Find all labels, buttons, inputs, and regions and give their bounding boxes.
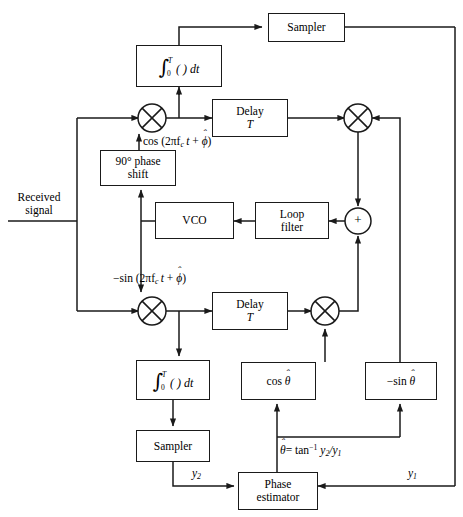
neg-sin-theta-block[interactable]: −sin ˆθ xyxy=(365,362,437,400)
integrator-top-expression: ∫T0( ) dt xyxy=(159,55,200,77)
cos-theta-block[interactable]: cos ˆθ xyxy=(241,362,316,400)
delay-bottom-block[interactable]: Delay T xyxy=(212,292,288,330)
phase-shift-block[interactable]: 90° phase shift xyxy=(100,150,176,186)
delay-top-label-line1: Delay xyxy=(236,105,263,118)
wire-integrator-top-to-sampler xyxy=(179,27,262,45)
integrator-bottom-block[interactable]: ∫T0( ) dt xyxy=(136,360,210,400)
neg-sin-theta-expression: −sin ˆθ xyxy=(387,375,415,388)
wire-layer xyxy=(0,0,463,517)
summer-plus-label: + xyxy=(352,213,364,228)
sampler-top-block[interactable]: Sampler xyxy=(268,13,345,42)
block-diagram: ∫T0( ) dt Sampler Delay T 90° phase shif… xyxy=(0,0,463,517)
delay-bottom-label-line1: Delay xyxy=(236,298,263,311)
wire-lower-right-mixer-to-summer xyxy=(339,236,358,311)
integrator-top-block[interactable]: ∫T0( ) dt xyxy=(136,45,222,87)
loop-filter-label-line1: Loop xyxy=(280,208,304,221)
received-signal-line2: signal xyxy=(25,204,52,216)
sampler-top-label: Sampler xyxy=(287,21,325,34)
cos-carrier-label: cos (2πfc t + ˆϕ) xyxy=(143,135,211,150)
theta-estimate-label: ˆθ= tan−1 y2/y1 xyxy=(280,444,342,459)
phase-shift-label-line1: 90° phase xyxy=(115,155,160,168)
neg-sin-carrier-label: −sin (2πfc t + ˆϕ) xyxy=(113,272,186,287)
vco-label: VCO xyxy=(182,214,206,227)
cos-theta-expression: cos ˆθ xyxy=(267,375,291,388)
phase-shift-label-line2: shift xyxy=(128,168,148,181)
sampler-bottom-block[interactable]: Sampler xyxy=(136,430,210,462)
wire-negsin-to-upper-mixer xyxy=(372,118,400,362)
loop-filter-label-line2: filter xyxy=(281,221,303,234)
received-signal-line1: Received xyxy=(18,191,61,203)
phase-estimator-label-line1: Phase xyxy=(265,478,292,491)
wire-y2-to-phase-estimator xyxy=(173,462,234,486)
sampler-bottom-label: Sampler xyxy=(154,440,192,453)
delay-top-block[interactable]: Delay T xyxy=(212,99,288,137)
received-signal-label: Received signal xyxy=(8,191,70,217)
y2-label: y2 xyxy=(192,467,201,482)
phase-estimator-label-line2: estimator xyxy=(257,491,300,504)
loop-filter-block[interactable]: Loop filter xyxy=(255,202,329,239)
y1-label: y1 xyxy=(408,467,417,482)
phase-estimator-block[interactable]: Phase estimator xyxy=(238,472,318,510)
integrator-bottom-expression: ∫T0( ) dt xyxy=(153,369,194,391)
delay-bottom-label-line2: T xyxy=(247,311,253,324)
vco-block[interactable]: VCO xyxy=(155,202,234,239)
delay-top-label-line2: T xyxy=(247,118,253,131)
